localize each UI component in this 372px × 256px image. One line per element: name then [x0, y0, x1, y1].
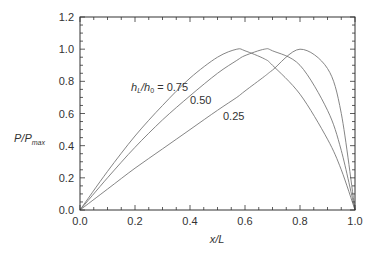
y-tick-labels: 0.00.20.40.60.81.01.2	[59, 11, 74, 216]
x-tick-label: 0.4	[182, 215, 197, 227]
x-axis-label: x/L	[209, 233, 225, 245]
y-tick-label: 0.4	[59, 140, 74, 152]
x-tick-label: 1.0	[347, 215, 362, 227]
axis-ticks	[80, 17, 355, 210]
y-axis-label-sub: max	[32, 139, 46, 146]
annotation-050: 0.50	[190, 94, 211, 106]
plot-frame	[80, 17, 355, 210]
y-tick-label: 0.0	[59, 204, 74, 216]
annotation-075: hL/h0 = 0.75	[131, 81, 188, 94]
axes-frame	[80, 17, 355, 210]
annotation-025: 0.25	[223, 110, 244, 122]
x-tick-label: 0.2	[127, 215, 142, 227]
x-tick-label: 0.8	[292, 215, 307, 227]
y-tick-label: 0.8	[59, 75, 74, 87]
curve-series-1	[80, 49, 355, 210]
y-tick-label: 1.2	[59, 11, 74, 23]
x-tick-label: 0.6	[237, 215, 252, 227]
chart: 0.00.20.40.60.81.0 0.00.20.40.60.81.01.2…	[0, 0, 372, 256]
y-tick-label: 0.2	[59, 172, 74, 184]
y-tick-label: 1.0	[59, 43, 74, 55]
x-tick-label: 0.0	[72, 215, 87, 227]
y-axis-label-main: P/P	[14, 132, 32, 144]
y-axis-label: P/Pmax	[14, 132, 45, 146]
y-tick-label: 0.6	[59, 108, 74, 120]
data-curves	[80, 49, 355, 210]
x-tick-labels: 0.00.20.40.60.81.0	[72, 215, 362, 227]
